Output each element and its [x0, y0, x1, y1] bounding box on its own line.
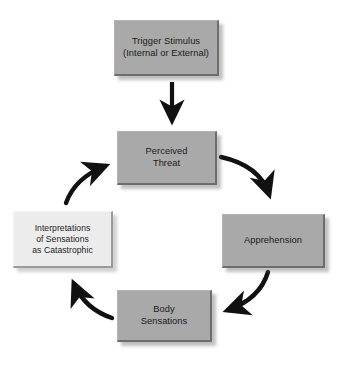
node-interpretations-of-sensations-label: Interpretations of Sensations as Catastr…: [29, 223, 95, 256]
arrow-interpretations-to-perceived: [66, 166, 105, 203]
node-apprehension: Apprehension: [222, 214, 325, 268]
node-body-sensations-label: Body Sensations: [138, 304, 191, 327]
panic-cycle-diagram: Trigger Stimulus (Internal or External) …: [0, 0, 340, 367]
arrow-body-to-interpretations: [74, 284, 112, 318]
arrow-perceived-to-apprehension: [221, 157, 269, 194]
node-body-sensations: Body Sensations: [117, 290, 212, 342]
node-apprehension-label: Apprehension: [241, 235, 305, 247]
node-trigger-stimulus-label: Trigger Stimulus (Internal or External): [120, 36, 212, 59]
node-interpretations-of-sensations: Interpretations of Sensations as Catastr…: [13, 211, 113, 268]
node-perceived-threat: Perceived Threat: [117, 131, 217, 185]
node-perceived-threat-label: Perceived Threat: [143, 146, 191, 169]
arrow-apprehension-to-body: [228, 272, 268, 310]
node-trigger-stimulus: Trigger Stimulus (Internal or External): [114, 20, 219, 76]
